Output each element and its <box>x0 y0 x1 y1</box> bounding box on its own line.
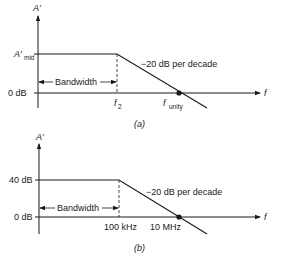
unity-label-b: 10 MHz <box>150 222 182 232</box>
caption-a: (a) <box>134 119 145 129</box>
caption-b: (b) <box>134 243 145 253</box>
bode-diagrams: A′ f A′ mid 0 dB f 2 f unity Bandwidth −… <box>0 0 281 265</box>
unity-label-a: f <box>163 98 167 108</box>
slope-label-b: −20 dB per decade <box>146 187 222 197</box>
bandwidth-label-a: Bandwidth <box>55 77 97 87</box>
diagram-b: A′ f 40 dB 0 dB 100 kHz 10 MHz Bandwidth… <box>9 132 268 253</box>
diagram-a: A′ f A′ mid 0 dB f 2 f unity Bandwidth −… <box>8 3 268 129</box>
x-axis-label-a: f <box>264 88 268 98</box>
corner-subscript-a: 2 <box>118 103 122 110</box>
mid-level-subscript-a: mid <box>24 54 35 61</box>
unity-point-b <box>176 214 181 219</box>
bandwidth-label-b: Bandwidth <box>57 203 99 213</box>
x-axis-label-b: f <box>264 212 268 222</box>
y-axis-label-a: A′ <box>32 3 41 13</box>
mid-level-label-b: 40 dB <box>9 175 33 185</box>
unity-point-a <box>176 90 181 95</box>
unity-subscript-a: unity <box>169 103 183 111</box>
zero-label-b: 0 dB <box>14 212 33 222</box>
mid-level-label-a: A′ <box>13 49 22 59</box>
corner-label-b: 100 kHz <box>104 222 138 232</box>
zero-label-a: 0 dB <box>8 88 27 98</box>
y-axis-label-b: A′ <box>35 132 44 142</box>
slope-label-a: −20 dB per decade <box>141 59 217 69</box>
